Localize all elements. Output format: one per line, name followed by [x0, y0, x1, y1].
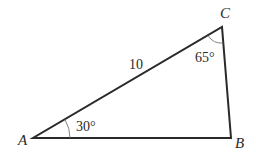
angle-a-measure: 30°: [76, 119, 96, 134]
triangle-diagram: A B C 10 30° 65°: [0, 0, 256, 161]
side-ac-length: 10: [129, 57, 143, 72]
vertex-label-a: A: [17, 132, 28, 148]
angle-c-measure: 65°: [195, 50, 215, 65]
vertex-label-b: B: [235, 135, 244, 151]
vertex-label-c: C: [220, 5, 231, 21]
angle-arc-c: [208, 36, 223, 44]
angle-arc-a: [65, 120, 70, 139]
triangle-abc: [33, 27, 231, 138]
